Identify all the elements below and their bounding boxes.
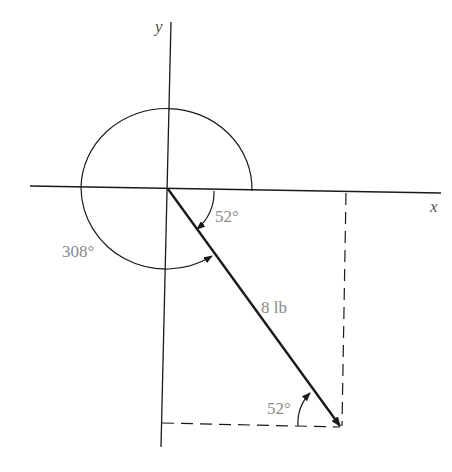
force-vector [168, 189, 340, 426]
triangle-angle-label: 52° [267, 399, 291, 418]
magnitude-label: 8 lb [261, 298, 287, 317]
triangle-angle-arc [298, 393, 310, 426]
vertical-component-dashed [342, 193, 346, 426]
vector-diagram: y x 52° 308° 8 lb 52° [0, 0, 452, 472]
reference-angle-label: 52° [215, 207, 239, 226]
y-axis [161, 22, 171, 447]
horizontal-component-dashed [162, 423, 340, 427]
reference-angle-arc [197, 191, 214, 229]
y-axis-label: y [153, 17, 163, 36]
x-axis [30, 186, 441, 193]
direction-angle-label: 308° [62, 242, 94, 261]
x-axis-label: x [429, 197, 438, 216]
